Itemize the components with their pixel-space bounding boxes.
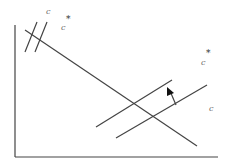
diagram-canvas — [0, 0, 231, 168]
star-right: * — [206, 49, 211, 58]
label-c-star-top: c — [61, 24, 65, 32]
downward-line — [25, 30, 197, 146]
label-c-top: c — [46, 8, 50, 16]
upper-upward-line — [96, 80, 172, 127]
diagram: c c * c * c — [0, 0, 231, 168]
label-c-right: c — [209, 105, 213, 113]
shift-arrow-head — [167, 87, 174, 96]
steep-line-right — [35, 22, 47, 52]
label-c-star-right: c — [201, 59, 205, 67]
star-top: * — [66, 15, 71, 24]
lower-upward-line — [116, 85, 207, 138]
